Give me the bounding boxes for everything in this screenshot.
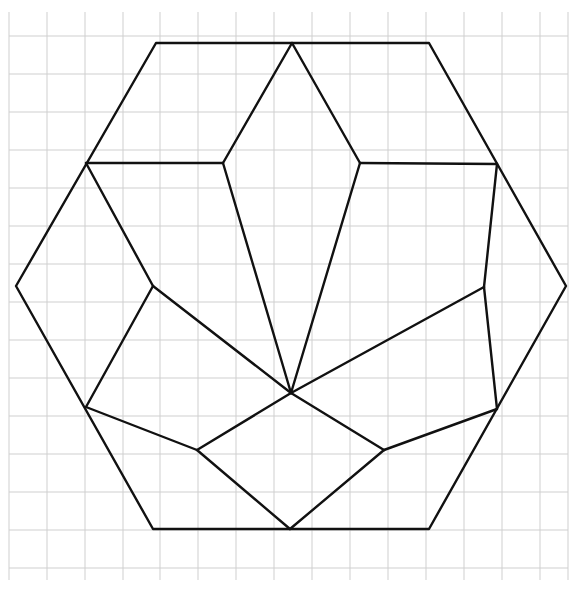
edge-i_ll-h_bot bbox=[197, 450, 290, 529]
edge-h_ll-i_ll bbox=[86, 407, 197, 450]
edge-i_ur-h_ur bbox=[360, 163, 497, 164]
edge-h_top-i_ul bbox=[223, 43, 292, 163]
edge-i_ul-center bbox=[223, 163, 291, 393]
edge-i_ml-h_ll bbox=[86, 286, 153, 407]
edge-i_ll-center bbox=[197, 393, 291, 450]
edge-i_lr-h_bot bbox=[290, 450, 384, 529]
diagram-canvas bbox=[0, 0, 572, 594]
edge-h_ul-i_ml bbox=[86, 163, 153, 286]
inner-edges bbox=[86, 43, 497, 529]
edge-h_lr-i_lr bbox=[384, 409, 497, 450]
hexagon-dissection bbox=[16, 43, 566, 529]
edge-i_lr-center bbox=[291, 393, 384, 450]
edge-i_mr-h_lr bbox=[484, 287, 497, 409]
